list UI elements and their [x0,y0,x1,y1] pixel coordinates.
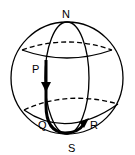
globe-diagram: N S P Q R [0,0,135,155]
label-s: S [68,142,75,154]
upper-latitude-front [22,50,112,58]
sphere-outline [11,22,123,134]
lower-latitude-back [24,98,118,110]
label-n: N [62,8,70,20]
arrow-down-icon [41,82,51,92]
label-q: Q [38,119,47,131]
label-r: R [90,119,98,131]
upper-latitude-back [22,42,112,50]
meridian-ellipse [45,22,89,134]
label-p: P [32,63,39,75]
